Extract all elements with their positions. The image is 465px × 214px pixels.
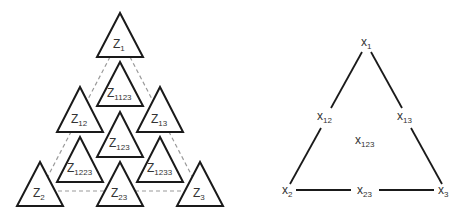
right-diagram-edges xyxy=(290,52,442,190)
node-z23: Z23 xyxy=(97,162,143,206)
diagram-canvas: Z1 Z1123 Z12 Z13 Z123 Z1223 Z1233 Z2 xyxy=(0,0,465,214)
left-diagram: Z1 Z1123 Z12 Z13 Z123 Z1223 Z1233 Z2 xyxy=(17,13,223,206)
node-z1123: Z1123 xyxy=(97,62,143,106)
node-z2: Z2 xyxy=(17,162,63,206)
node-x3: x3 xyxy=(438,183,449,199)
edge-x13-x3 xyxy=(411,128,442,184)
right-diagram-labels: x1 x12 x13 x123 x2 x23 x3 xyxy=(282,35,449,199)
node-x23: x23 xyxy=(357,183,372,199)
node-x1: x1 xyxy=(361,35,372,51)
node-x123: x123 xyxy=(355,133,375,149)
node-z1: Z1 xyxy=(97,13,143,57)
node-x12: x12 xyxy=(317,109,332,125)
node-x2: x2 xyxy=(282,183,293,199)
edge-x12-x2 xyxy=(290,128,321,184)
node-z3: Z3 xyxy=(177,162,223,206)
node-z1233: Z1233 xyxy=(137,137,183,182)
edge-x1-x12 xyxy=(331,52,362,108)
node-z123: Z123 xyxy=(97,112,143,157)
node-z1223: Z1223 xyxy=(57,137,103,182)
edge-x1-x13 xyxy=(371,52,402,108)
node-x13: x13 xyxy=(397,109,412,125)
node-z12: Z12 xyxy=(57,87,103,132)
node-z13: Z13 xyxy=(137,87,183,132)
